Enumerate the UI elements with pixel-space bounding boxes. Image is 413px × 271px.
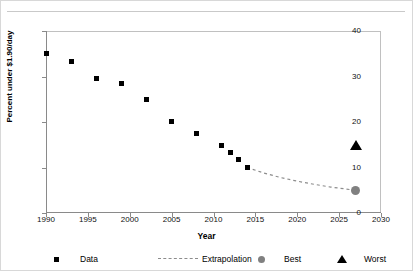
chart-legend: Data Extrapolation Best Worst <box>0 252 413 268</box>
y-axis-title: Percent under $1.90/day <box>5 27 14 127</box>
data-point-best <box>351 186 360 195</box>
data-point-data <box>194 131 199 136</box>
y-axis-tick-label: 20 <box>339 118 361 126</box>
legend-label-extrapolation: Extrapolation <box>202 252 252 266</box>
data-point-data <box>69 59 74 64</box>
plot-area <box>46 31 381 213</box>
x-axis-tick-label: 2020 <box>277 216 317 224</box>
square-marker-icon <box>54 257 59 262</box>
figure-border-top <box>0 0 413 1</box>
x-axis-tick-label: 2000 <box>110 216 150 224</box>
data-point-data <box>228 150 233 155</box>
data-point-data <box>144 97 149 102</box>
data-point-data <box>119 81 124 86</box>
y-axis-tick <box>42 77 46 78</box>
y-axis-tick-label: 30 <box>339 73 361 81</box>
x-axis-tick-label: 1990 <box>26 216 66 224</box>
figure-inner-rule <box>7 11 405 12</box>
y-axis-tick <box>42 122 46 123</box>
y-axis-tick <box>42 168 46 169</box>
dashed-line-marker-icon <box>158 258 198 259</box>
chart-figure: Percent under $1.90/day Year Data Extrap… <box>0 0 413 271</box>
x-axis-title: Year <box>0 231 413 241</box>
y-axis-line <box>46 31 47 213</box>
legend-label-best: Best <box>284 252 301 266</box>
legend-label-worst: Worst <box>364 252 386 266</box>
x-axis-tick-label: 2005 <box>152 216 192 224</box>
extrapolation-line <box>46 31 381 213</box>
y-axis-tick-label: 10 <box>339 164 361 172</box>
data-point-worst <box>350 140 362 150</box>
data-point-data <box>44 51 49 56</box>
x-axis-tick-label: 2025 <box>319 216 359 224</box>
data-point-data <box>245 165 250 170</box>
x-axis-tick-label: 2015 <box>235 216 275 224</box>
y-axis-tick <box>42 31 46 32</box>
data-point-data <box>236 157 241 162</box>
x-axis-tick-label: 2010 <box>194 216 234 224</box>
data-point-data <box>169 119 174 124</box>
triangle-marker-icon <box>337 255 347 263</box>
data-point-data <box>219 143 224 148</box>
plot-border-right <box>380 31 381 213</box>
legend-label-data: Data <box>80 252 98 266</box>
x-axis-tick-label: 2030 <box>361 216 401 224</box>
plot-border-top <box>46 31 381 32</box>
data-point-data <box>94 76 99 81</box>
circle-marker-icon <box>258 256 265 263</box>
x-axis-tick-label: 1995 <box>68 216 108 224</box>
y-axis-tick-label: 40 <box>339 27 361 35</box>
